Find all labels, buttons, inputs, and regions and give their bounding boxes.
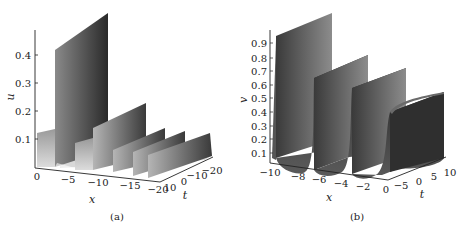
t-tick-b-2: 5 <box>431 171 437 182</box>
surface-a <box>37 13 212 178</box>
x-tick-b-0: −10 <box>259 167 280 178</box>
t-tick-b-0: −5 <box>394 180 409 191</box>
z-label-a: u <box>4 93 17 100</box>
z-tick-a-3: 0.4 <box>15 50 31 61</box>
x-tick-b-2: −6 <box>312 174 327 185</box>
x-tick-a-0: 0 <box>34 171 40 182</box>
z-tick-b-6: 0.7 <box>251 66 267 77</box>
z-label-b: v <box>237 96 250 103</box>
x-label-b: x <box>326 191 333 204</box>
z-tick-a-1: 0.2 <box>15 106 31 117</box>
z-tick-b-7: 0.8 <box>251 53 267 64</box>
z-tick-b-5: 0.6 <box>251 80 267 91</box>
panel-b: 0.1 0.2 0.3 0.4 0.5 0.6 0.7 0.8 0.9 −10 … <box>237 13 456 222</box>
z-tick-b-4: 0.5 <box>251 93 267 104</box>
x-tick-b-4: −2 <box>356 181 371 192</box>
figure-canvas: 0.1 0.2 0.3 0.4 0 −5 −10 −15 −20 10 0 −1… <box>0 0 462 231</box>
x-tick-b-3: −4 <box>334 178 349 189</box>
x-tick-b-1: −8 <box>291 171 306 182</box>
x-tick-a-2: −10 <box>87 177 108 188</box>
panel-a: 0.1 0.2 0.3 0.4 0 −5 −10 −15 −20 10 0 −1… <box>4 13 223 222</box>
t-tick-b-1: 0 <box>416 176 422 187</box>
t-tick-a-0: 10 <box>164 182 177 193</box>
z-tick-a-0: 0.1 <box>15 134 31 145</box>
caption-b: (b) <box>350 211 364 222</box>
t-tick-a-3: −20 <box>201 165 222 176</box>
t-tick-b-3: 10 <box>444 167 457 178</box>
x-tick-a-1: −5 <box>61 174 76 185</box>
z-tick-b-0: 0.1 <box>251 148 267 159</box>
x-tick-b-5: 0 <box>383 184 389 195</box>
t-label-b: t <box>420 188 425 201</box>
x-label-a: x <box>89 193 96 206</box>
caption-a: (a) <box>110 211 124 222</box>
z-tick-b-8: 0.9 <box>251 38 267 49</box>
surface-b <box>272 13 444 179</box>
z-tick-b-2: 0.3 <box>251 121 267 132</box>
t-label-a: t <box>183 189 188 202</box>
z-tick-b-3: 0.4 <box>251 107 267 118</box>
z-tick-a-2: 0.3 <box>15 78 31 89</box>
x-tick-a-3: −15 <box>119 180 140 191</box>
z-tick-b-1: 0.2 <box>251 134 267 145</box>
